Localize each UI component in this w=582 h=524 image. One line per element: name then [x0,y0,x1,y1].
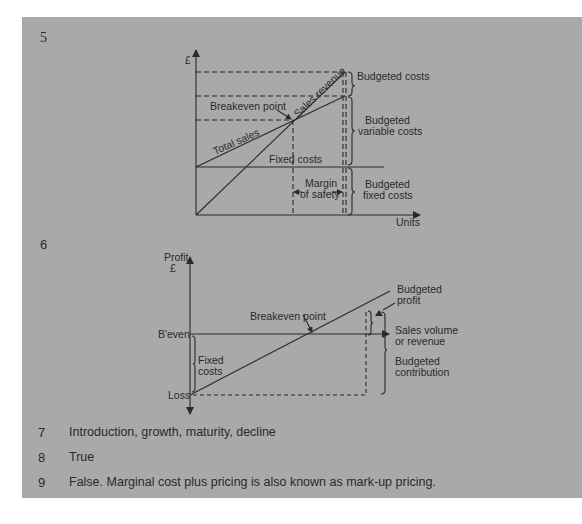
sales-volume-label-2: or revenue [395,335,445,347]
budgeted-profit-label-2: profit [397,294,420,306]
budgeted-contribution-label-2: contribution [395,366,449,378]
profit-axis-label-pound: £ [170,262,176,274]
beven-label: B'even [158,328,190,340]
breakeven-point-label-2: Breakeven point [250,310,326,322]
profit-volume-chart: Profit £ B'even Loss Fixed costs Breakev… [0,0,582,524]
profit-line [190,291,390,395]
profit-axis-label: Profit [164,251,189,263]
fixed-costs-label-2: costs [198,365,223,377]
loss-label: Loss [168,389,190,401]
